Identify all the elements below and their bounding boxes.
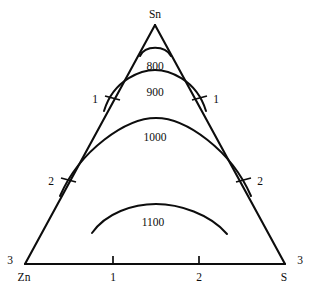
isotherm-label-1100: 1100 — [142, 216, 165, 228]
right-tick-2-label: 2 — [257, 175, 263, 187]
bottom-tick-1-label: 1 — [110, 271, 116, 283]
diagram-canvas: Sn Zn S 3 3 1 2 1 2 1 2 800 900 1000 110… — [0, 0, 316, 291]
isotherm-label-1000: 1000 — [144, 131, 167, 143]
left-tick-1-mark — [105, 96, 120, 100]
left-corner-value: 3 — [7, 254, 13, 266]
ternary-phase-diagram: Sn Zn S 3 3 1 2 1 2 1 2 800 900 1000 110… — [0, 0, 316, 291]
left-axis-ticks — [61, 96, 120, 182]
right-corner-value: 3 — [297, 254, 303, 266]
bottom-axis-ticks — [113, 256, 199, 264]
apex-vertex-label: Sn — [149, 8, 161, 20]
isotherm-label-800: 800 — [146, 60, 164, 72]
bottom-tick-2-label: 2 — [196, 271, 202, 283]
isotherm-label-900: 900 — [146, 86, 164, 98]
left-vertex-label: Zn — [18, 271, 31, 283]
left-tick-1-label: 1 — [92, 93, 98, 105]
left-edge — [25, 25, 155, 264]
isotherm-curve-1000 — [60, 118, 251, 196]
left-tick-2-label: 2 — [48, 175, 54, 187]
right-vertex-label: S — [281, 271, 287, 283]
right-tick-1-label: 1 — [213, 93, 219, 105]
isotherm-curve-800 — [140, 48, 171, 56]
